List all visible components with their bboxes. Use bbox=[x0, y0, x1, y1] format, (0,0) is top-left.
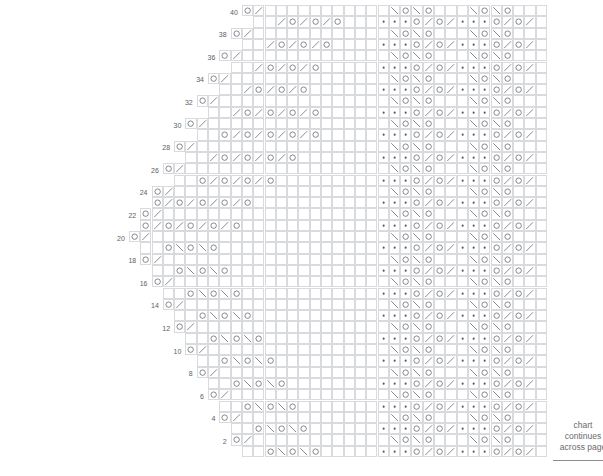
cell-symbol bbox=[220, 356, 229, 365]
chart-cell bbox=[400, 288, 411, 299]
chart-cell bbox=[457, 231, 468, 242]
chart-cell bbox=[276, 152, 287, 163]
chart-cell bbox=[491, 141, 502, 152]
cell-symbol bbox=[525, 447, 534, 456]
cell-symbol bbox=[401, 29, 410, 38]
chart-cell bbox=[242, 299, 253, 310]
cell-symbol bbox=[412, 266, 421, 275]
chart-cell bbox=[332, 401, 343, 412]
chart-cell bbox=[287, 84, 298, 95]
chart-cell bbox=[536, 254, 547, 265]
cell-symbol bbox=[435, 108, 444, 117]
chart-cell bbox=[276, 288, 287, 299]
chart-cell bbox=[491, 254, 502, 265]
chart-cell bbox=[276, 107, 287, 118]
cell-symbol bbox=[243, 85, 252, 94]
cell-symbol bbox=[469, 379, 478, 388]
chart-cell bbox=[355, 288, 366, 299]
cell-symbol bbox=[401, 413, 410, 422]
cell-symbol bbox=[288, 153, 297, 162]
cell-symbol bbox=[492, 390, 501, 399]
chart-cell bbox=[536, 367, 547, 378]
chart-cell bbox=[197, 129, 208, 140]
cell-symbol bbox=[492, 85, 501, 94]
chart-cell bbox=[434, 321, 445, 332]
chart-cell bbox=[468, 299, 479, 310]
chart-cell bbox=[276, 16, 287, 27]
chart-cell bbox=[242, 231, 253, 242]
chart-cell bbox=[208, 141, 219, 152]
cell-symbol bbox=[424, 334, 433, 343]
chart-cell bbox=[298, 220, 309, 231]
cell-symbol bbox=[186, 289, 195, 298]
chart-cell bbox=[231, 62, 242, 73]
chart-cell bbox=[457, 141, 468, 152]
cell-symbol bbox=[254, 334, 263, 343]
chart-cell bbox=[163, 276, 174, 287]
chart-cell bbox=[457, 242, 468, 253]
chart-cell bbox=[355, 50, 366, 61]
cell-symbol bbox=[390, 289, 399, 298]
chart-cell bbox=[310, 333, 321, 344]
chart-cell bbox=[445, 5, 456, 16]
chart-cell bbox=[502, 434, 513, 445]
chart-cell bbox=[332, 84, 343, 95]
chart-cell bbox=[253, 299, 264, 310]
chart-cell bbox=[491, 231, 502, 242]
chart-cell bbox=[468, 355, 479, 366]
cell-symbol bbox=[390, 447, 399, 456]
chart-cell bbox=[355, 220, 366, 231]
chart-cell bbox=[434, 220, 445, 231]
cell-symbol bbox=[424, 96, 433, 105]
chart-cell bbox=[366, 5, 377, 16]
chart-cell bbox=[310, 5, 321, 16]
cell-symbol bbox=[424, 413, 433, 422]
chart-cell bbox=[219, 321, 230, 332]
cell-symbol bbox=[503, 232, 512, 241]
chart-cell bbox=[513, 434, 524, 445]
chart-cell bbox=[265, 107, 276, 118]
cell-symbol bbox=[254, 379, 263, 388]
chart-cell bbox=[445, 50, 456, 61]
chart-cell bbox=[502, 175, 513, 186]
chart-cell bbox=[502, 186, 513, 197]
chart-cell bbox=[411, 242, 422, 253]
chart-cell bbox=[491, 152, 502, 163]
chart-cell bbox=[524, 141, 535, 152]
cell-symbol bbox=[503, 153, 512, 162]
cell-symbol bbox=[424, 243, 433, 252]
chart-cell bbox=[265, 367, 276, 378]
chart-cell bbox=[513, 152, 524, 163]
cell-symbol bbox=[198, 96, 207, 105]
cell-symbol bbox=[232, 221, 241, 230]
chart-cell bbox=[400, 242, 411, 253]
chart-cell bbox=[389, 310, 400, 321]
chart-cell bbox=[468, 310, 479, 321]
chart-cell bbox=[321, 288, 332, 299]
chart-cell bbox=[491, 242, 502, 253]
chart-cell bbox=[513, 265, 524, 276]
chart-cell bbox=[445, 254, 456, 265]
chart-cell bbox=[457, 152, 468, 163]
cell-symbol bbox=[492, 108, 501, 117]
chart-cell bbox=[479, 84, 490, 95]
chart-cell bbox=[344, 265, 355, 276]
cell-symbol bbox=[514, 356, 523, 365]
chart-cell bbox=[366, 367, 377, 378]
chart-cell bbox=[389, 242, 400, 253]
chart-cell bbox=[491, 50, 502, 61]
cell-symbol bbox=[458, 85, 467, 94]
chart-cell bbox=[242, 412, 253, 423]
cell-symbol bbox=[333, 17, 342, 26]
chart-cell bbox=[298, 276, 309, 287]
chart-cell bbox=[457, 367, 468, 378]
cell-symbol bbox=[198, 345, 207, 354]
row-number-label: 32 bbox=[175, 97, 193, 108]
chart-cell bbox=[536, 299, 547, 310]
cell-symbol bbox=[503, 435, 512, 444]
cell-symbol bbox=[412, 368, 421, 377]
cell-symbol bbox=[492, 176, 501, 185]
cell-symbol bbox=[503, 413, 512, 422]
cell-symbol bbox=[401, 345, 410, 354]
cell-symbol bbox=[435, 221, 444, 230]
